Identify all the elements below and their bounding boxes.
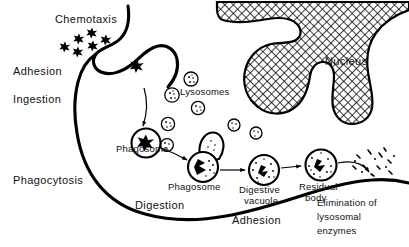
label-phagosome-1: Phagosome [116, 143, 169, 154]
label-nucleus: Nucleus [325, 55, 368, 67]
residual-body [306, 150, 337, 181]
lysosome [191, 101, 204, 114]
lysosome [228, 119, 240, 131]
bacteria-cluster [59, 28, 111, 58]
label-phagocytosis: Phagocytosis [13, 174, 83, 186]
diagram-canvas: Chemotaxis Adhesion Ingestion Phagocytos… [0, 0, 409, 247]
label-elimination-1: Elimination of [317, 197, 377, 208]
label-elimination-2: lysosomal [317, 211, 361, 222]
label-residual-body-1: Residual [299, 181, 338, 192]
label-digestive-vacuole-2: vacuole [244, 195, 278, 206]
label-digestive-vacuole-1: Digestive [239, 184, 280, 195]
lysosome [184, 72, 198, 86]
label-ingestion: Ingestion [13, 93, 61, 105]
lysosome [165, 88, 179, 102]
label-adhesion-left: Adhesion [13, 65, 62, 77]
label-chemotaxis: Chemotaxis [55, 13, 117, 25]
digestive-vacuole [249, 155, 279, 185]
label-lysosomes: Lysosomes [180, 86, 230, 97]
expelled-enzymes [353, 148, 395, 176]
phagosome-2 [188, 133, 223, 183]
lysosome [161, 117, 174, 130]
arrow-ingestion [143, 88, 147, 126]
label-phagosome-2: Phagosome [168, 181, 221, 192]
label-adhesion-bottom: Adhesion [232, 214, 281, 226]
label-elimination-3: enzymes [317, 225, 356, 236]
lysosome [250, 127, 262, 139]
nucleus-shape [217, 2, 409, 124]
label-digestion: Digestion [135, 199, 184, 211]
arrow-to-residual [281, 166, 301, 168]
phagocytosis-diagram: Chemotaxis Adhesion Ingestion Phagocytos… [0, 0, 409, 247]
